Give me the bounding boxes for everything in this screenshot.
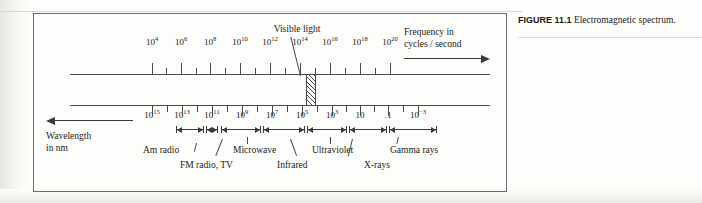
figure-caption-text: Electromagnetic spectrum. — [574, 15, 676, 25]
frequency-tick-label-exponent-2: 8 — [213, 35, 216, 42]
band-label-infrared: Infrared — [277, 161, 308, 171]
frequency-axis-tick-9 — [285, 68, 286, 74]
frequency-axis-tick-0 — [152, 63, 153, 74]
frequency-axis-tick-14 — [360, 63, 361, 74]
scan-edge-tint-left — [0, 0, 30, 203]
wavelength-axis-tick-12 — [332, 106, 333, 116]
band-range-arrow-right-icon — [431, 127, 436, 133]
band-range-arrow-left-icon — [390, 127, 395, 133]
scan-artifact-rule-caption — [518, 37, 702, 38]
frequency-axis-tick-7 — [255, 68, 256, 74]
frequency-axis-tick-2 — [181, 63, 182, 74]
frequency-axis-tick-3 — [196, 68, 197, 74]
band-range-arrow-right-icon — [212, 127, 217, 133]
wavelength-tick-label-exponent-0: 15 — [153, 108, 160, 115]
wavelength-tick-label-exponent-4: 7 — [275, 108, 278, 115]
frequency-arrow-head-icon — [481, 55, 490, 63]
wavelength-axis-caption: Wavelength in nm — [46, 131, 91, 155]
wavelength-axis-tick-2 — [182, 106, 183, 116]
wavelength-axis-tick-14 — [360, 106, 361, 116]
frequency-axis-tick-8 — [270, 63, 271, 74]
band-leader-line-4 — [330, 137, 331, 144]
band-range-bracket-5 — [349, 126, 387, 133]
frequency-caption-line-1: Frequency in — [404, 27, 462, 39]
wavelength-axis-tick-5 — [227, 106, 228, 112]
frequency-tick-label-2: 108 — [204, 38, 216, 47]
band-range-arrow-left-icon — [177, 127, 182, 133]
wavelength-axis-tick-9 — [287, 106, 288, 112]
frequency-tick-label-exponent-0: 4 — [155, 35, 158, 42]
frequency-tick-label-7: 1018 — [352, 38, 368, 47]
frequency-tick-label-5: 1014 — [292, 38, 308, 47]
band-range-arrow-left-icon — [308, 127, 313, 133]
wavelength-arrow-head-icon — [46, 117, 55, 125]
wavelength-axis-tick-4 — [212, 106, 213, 116]
frequency-tick-label-8: 1020 — [382, 38, 398, 47]
wavelength-axis-line — [70, 105, 490, 106]
band-range-bracket-1 — [206, 126, 218, 133]
band-range-cap-right — [346, 126, 347, 133]
band-range-arrow-left-icon — [350, 127, 355, 133]
band-label-ultraviolet: Ultraviolet — [312, 146, 353, 156]
frequency-axis-tick-16 — [390, 63, 391, 74]
band-range-cap-right — [436, 126, 437, 133]
visible-light-label: Visible light — [274, 24, 321, 34]
wavelength-axis-tick-17 — [403, 106, 404, 112]
wavelength-arrow-line — [55, 120, 133, 121]
band-range-arrow-right-icon — [255, 127, 260, 133]
wavelength-axis-tick-11 — [317, 106, 318, 112]
wavelength-tick-label-exponent-3: 9 — [245, 108, 248, 115]
visible-light-band — [306, 75, 316, 105]
wavelength-axis-tick-8 — [272, 106, 273, 116]
band-range-arrow-left-icon — [264, 127, 269, 133]
frequency-tick-label-exponent-7: 18 — [361, 35, 368, 42]
wavelength-axis-tick-15 — [374, 106, 375, 112]
wavelength-axis-tick-18 — [418, 106, 419, 116]
band-range-cap-right — [304, 126, 305, 133]
band-range-cap-right — [217, 126, 218, 133]
frequency-axis-tick-4 — [210, 63, 211, 74]
band-leader-line-2 — [247, 137, 248, 144]
wavelength-axis-tick-16 — [388, 106, 389, 116]
band-label-x-rays: X-rays — [364, 161, 390, 171]
wavelength-axis-tick-0 — [152, 106, 153, 116]
frequency-tick-label-exponent-6: 16 — [331, 35, 338, 42]
wavelength-tick-label-exponent-2: 11 — [213, 108, 219, 115]
frequency-axis-tick-15 — [375, 68, 376, 74]
band-range-cap-right — [386, 126, 387, 133]
frequency-tick-label-exponent-1: 6 — [184, 35, 187, 42]
frequency-axis-tick-12 — [330, 63, 331, 74]
frequency-tick-label-exponent-3: 10 — [241, 35, 248, 42]
wavelength-caption-line-2: in nm — [46, 143, 91, 155]
wavelength-axis-tick-10 — [302, 106, 303, 116]
wavelength-axis-tick-13 — [346, 106, 347, 112]
band-range-arrow-right-icon — [341, 127, 346, 133]
wavelength-tick-label-exponent-9: −3 — [419, 108, 426, 115]
wavelength-caption-line-1: Wavelength — [46, 131, 91, 143]
frequency-tick-label-3: 1010 — [232, 38, 248, 47]
band-label-fm-radio-tv: FM radio, TV — [180, 161, 233, 171]
frequency-axis-caption: Frequency in cycles / second — [404, 27, 462, 51]
wavelength-tick-label-exponent-5: 5 — [305, 108, 308, 115]
wavelength-axis-tick-3 — [197, 106, 198, 112]
band-range-arrow-right-icon — [381, 127, 386, 133]
wavelength-tick-label-exponent-6: 3 — [335, 108, 338, 115]
wavelength-tick-label-exponent-1: 13 — [183, 108, 190, 115]
frequency-tick-label-exponent-8: 20 — [391, 35, 398, 42]
scan-artifact-rule-top — [0, 11, 522, 12]
frequency-tick-label-1: 106 — [175, 38, 187, 47]
band-range-bracket-0 — [176, 126, 204, 133]
band-range-bracket-3 — [263, 126, 305, 133]
band-range-bracket-4 — [307, 126, 347, 133]
band-range-cap-right — [260, 126, 261, 133]
band-label-gamma-rays: Gamma rays — [390, 146, 438, 156]
band-range-bar — [389, 129, 437, 130]
frequency-axis-tick-11 — [315, 68, 316, 74]
band-range-bracket-6 — [389, 126, 437, 133]
frequency-axis-tick-13 — [345, 68, 346, 74]
frequency-caption-line-2: cycles / second — [404, 39, 462, 51]
frequency-axis-tick-10 — [300, 63, 301, 74]
frequency-axis-tick-6 — [240, 63, 241, 74]
figure-caption: FIGURE 11.1 Electromagnetic spectrum. — [518, 14, 698, 27]
wavelength-axis-tick-7 — [257, 106, 258, 112]
